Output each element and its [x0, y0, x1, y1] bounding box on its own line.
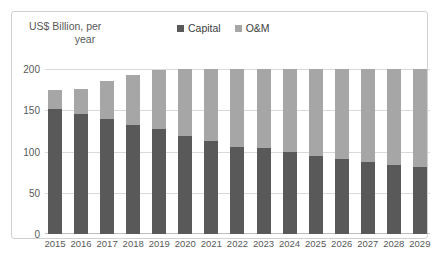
bar-segment-capital[interactable]	[257, 148, 271, 234]
bar-group-2015[interactable]: 2015	[48, 69, 62, 234]
y-axis-tick-label: 100	[23, 146, 40, 157]
bar-segment-om[interactable]	[309, 69, 323, 156]
plot-area: 050100150200 201520162017201820192020202…	[45, 69, 430, 234]
bar-segment-om[interactable]	[204, 69, 218, 141]
chart-frame: US$ Billion, per year CapitalO&M 0501001…	[11, 11, 428, 239]
bar-segment-om[interactable]	[413, 69, 427, 167]
chart-legend: CapitalO&M	[177, 22, 270, 34]
bar-segment-om[interactable]	[152, 70, 166, 129]
y-axis-title: US$ Billion, per year	[29, 20, 137, 46]
bar-series-container: 2015201620172018201920202021202220232024…	[45, 69, 430, 234]
x-axis-tick-label: 2027	[357, 238, 378, 249]
bar-segment-capital[interactable]	[152, 129, 166, 234]
bar-group-2021[interactable]: 2021	[204, 69, 218, 234]
legend-swatch-icon	[177, 25, 184, 32]
bar-group-2016[interactable]: 2016	[74, 69, 88, 234]
legend-swatch-icon	[235, 25, 242, 32]
bar-group-2020[interactable]: 2020	[178, 69, 192, 234]
bar-segment-capital[interactable]	[230, 147, 244, 234]
y-axis-tick-label: 50	[29, 187, 40, 198]
bar-group-2024[interactable]: 2024	[283, 69, 297, 234]
bar-segment-capital[interactable]	[100, 119, 114, 234]
bar-segment-om[interactable]	[283, 69, 297, 152]
bar-group-2025[interactable]: 2025	[309, 69, 323, 234]
bar-segment-capital[interactable]	[387, 165, 401, 234]
x-axis-tick-label: 2025	[305, 238, 326, 249]
x-axis-tick-label: 2021	[201, 238, 222, 249]
bar-segment-om[interactable]	[126, 75, 140, 125]
bar-segment-capital[interactable]	[204, 141, 218, 234]
y-axis-tick-label: 200	[23, 64, 40, 75]
bar-segment-om[interactable]	[48, 90, 62, 109]
legend-item-capital[interactable]: Capital	[177, 22, 221, 34]
bar-group-2029[interactable]: 2029	[413, 69, 427, 234]
y-axis-title-line2: year	[29, 33, 137, 46]
bar-segment-om[interactable]	[257, 69, 271, 148]
bar-group-2027[interactable]: 2027	[361, 69, 375, 234]
bar-segment-om[interactable]	[178, 69, 192, 136]
x-axis-tick-label: 2018	[123, 238, 144, 249]
bar-segment-om[interactable]	[335, 69, 349, 159]
bar-group-2028[interactable]: 2028	[387, 69, 401, 234]
bar-segment-om[interactable]	[387, 69, 401, 165]
bar-segment-capital[interactable]	[335, 159, 349, 234]
legend-item-label: O&M	[246, 22, 270, 34]
bar-segment-capital[interactable]	[178, 136, 192, 234]
x-axis-tick-label: 2015	[44, 238, 65, 249]
legend-item-label: Capital	[188, 22, 221, 34]
x-axis-tick-label: 2024	[279, 238, 300, 249]
x-axis-tick-label: 2017	[97, 238, 118, 249]
bar-segment-om[interactable]	[361, 69, 375, 162]
bar-segment-capital[interactable]	[413, 167, 427, 234]
x-axis-tick-label: 2029	[409, 238, 430, 249]
legend-item-o-m[interactable]: O&M	[235, 22, 270, 34]
x-axis-tick-label: 2028	[383, 238, 404, 249]
x-axis-tick-label: 2020	[175, 238, 196, 249]
bar-group-2022[interactable]: 2022	[230, 69, 244, 234]
bar-segment-capital[interactable]	[309, 156, 323, 234]
bar-group-2018[interactable]: 2018	[126, 69, 140, 234]
x-axis-tick-label: 2019	[149, 238, 170, 249]
bar-group-2023[interactable]: 2023	[257, 69, 271, 234]
bar-group-2019[interactable]: 2019	[152, 69, 166, 234]
x-axis-tick-label: 2026	[331, 238, 352, 249]
x-axis-tick-label: 2016	[70, 238, 91, 249]
bar-segment-om[interactable]	[100, 81, 114, 120]
bar-group-2026[interactable]: 2026	[335, 69, 349, 234]
bar-segment-capital[interactable]	[74, 114, 88, 234]
x-axis-tick-label: 2022	[227, 238, 248, 249]
x-axis-tick-label: 2023	[253, 238, 274, 249]
bar-segment-om[interactable]	[74, 89, 88, 115]
bar-segment-capital[interactable]	[361, 162, 375, 234]
y-axis-tick-label: 0	[34, 229, 40, 240]
bar-segment-capital[interactable]	[48, 109, 62, 234]
bar-segment-om[interactable]	[230, 69, 244, 147]
bar-segment-capital[interactable]	[126, 125, 140, 234]
y-axis-tick-label: 150	[23, 105, 40, 116]
bar-segment-capital[interactable]	[283, 152, 297, 234]
bar-group-2017[interactable]: 2017	[100, 69, 114, 234]
y-axis-title-line1: US$ Billion, per	[29, 20, 137, 33]
